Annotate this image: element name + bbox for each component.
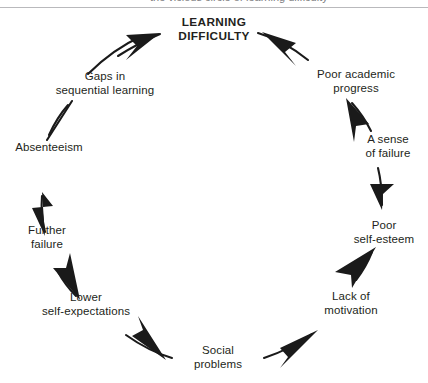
edge-absenteeism-to-gaps [47,101,72,140]
node-label-learning-difficulty: LEARNING DIFFICULTY [154,15,274,43]
node-label-further-failure: Further failure [12,224,82,251]
edge-poor-self-esteem-to-lack-of-motivation [335,247,376,288]
arrowhead-to-social-problems [280,330,318,368]
node-label-poor-academic-progress: Poor academic progress [304,68,408,95]
arrowhead-to-lower-self-expectations [132,316,166,360]
edge-sense-of-failure-to-poor-self-esteem [370,168,394,210]
node-label-gaps-in-sequential-learning: Gaps in sequential learning [37,70,173,97]
arrowhead-to-lack-of-motivation [335,247,376,288]
edge-lack-of-motivation-to-social-problems [264,330,318,368]
node-label-poor-self-esteem: Poor self-esteem [342,219,426,246]
edge-social-problems-to-lower-self-expectations [126,316,172,360]
node-label-lack-of-motivation: Lack of motivation [311,290,391,317]
node-label-absenteeism: Absenteeism [3,141,95,155]
node-label-lower-self-expectations: Lower self-expectations [24,291,148,318]
vicious-circle-diagram [0,0,428,383]
edge-gaps-to-learning-difficulty [88,33,160,74]
node-label-a-sense-of-failure: A sense of failure [350,133,426,160]
node-label-social-problems: Social problems [180,344,256,371]
arrowhead-to-poor-self-esteem [370,184,394,210]
